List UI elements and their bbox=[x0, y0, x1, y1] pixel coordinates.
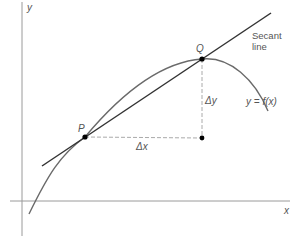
secant-label-line1: Secant bbox=[252, 30, 282, 41]
function-label: y = f(x) bbox=[245, 96, 277, 107]
point-p-marker bbox=[82, 134, 87, 139]
delta-x-segment bbox=[85, 137, 202, 138]
x-axis-label: x bbox=[283, 205, 290, 216]
point-p-label: P bbox=[78, 123, 85, 134]
secant-line bbox=[42, 13, 271, 166]
secant-diagram: y x P Q Secant line Δx Δy y = f(x) bbox=[0, 0, 293, 245]
point-q-label: Q bbox=[196, 43, 204, 54]
point-q-marker bbox=[199, 56, 204, 61]
secant-label-line2: line bbox=[252, 41, 267, 52]
function-curve bbox=[29, 59, 268, 214]
delta-y-label: Δy bbox=[204, 95, 218, 106]
delta-x-label: Δx bbox=[135, 141, 149, 152]
corner-marker bbox=[200, 136, 205, 141]
y-axis-label: y bbox=[26, 2, 33, 13]
